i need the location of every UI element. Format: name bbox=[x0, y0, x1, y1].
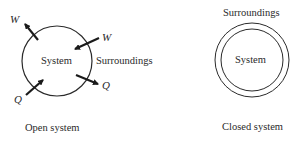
closed-surroundings-label: Surroundings bbox=[223, 7, 280, 18]
heat-out-label: Q bbox=[102, 79, 110, 91]
open-surroundings-label: Surroundings bbox=[96, 55, 153, 66]
work-in-arrow bbox=[75, 38, 99, 49]
work-in-label: W bbox=[102, 31, 112, 43]
closed-system-label: System bbox=[235, 54, 266, 65]
open-system-diagram: W W Q Q System Surroundings Open system bbox=[10, 13, 153, 133]
work-out-label: W bbox=[10, 13, 20, 25]
open-system-label: System bbox=[41, 55, 72, 66]
open-system-caption: Open system bbox=[25, 122, 80, 133]
heat-in-label: Q bbox=[14, 93, 22, 105]
closed-system-diagram: Surroundings System Closed system bbox=[215, 7, 289, 132]
closed-system-caption: Closed system bbox=[222, 121, 283, 132]
system-diagram: W W Q Q System Surroundings Open system … bbox=[0, 0, 298, 141]
heat-out-arrow bbox=[76, 75, 98, 84]
